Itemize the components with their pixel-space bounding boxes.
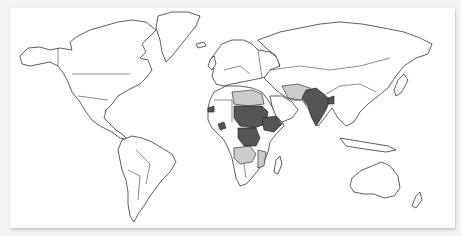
new-zealand <box>412 192 422 208</box>
japan <box>394 74 408 96</box>
madagascar <box>274 156 282 174</box>
iceland <box>196 42 206 48</box>
map-card <box>10 8 455 228</box>
indonesia <box>340 138 396 152</box>
north-america <box>20 20 156 140</box>
region-mozambique <box>258 150 266 168</box>
world-map <box>10 8 455 228</box>
greenland <box>156 12 200 62</box>
australia <box>350 162 400 198</box>
